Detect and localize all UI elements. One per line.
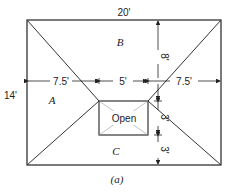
left-height-label: 14' xyxy=(4,90,17,101)
upper-vertical-label: 8' xyxy=(159,53,170,61)
roof-plan-diagram: 20' 14' 7.5' 5' 7.5' 8' 3' 3' B A C Open… xyxy=(0,0,234,192)
region-a-label: A xyxy=(48,94,56,106)
lower-vertical-label: 3' xyxy=(159,146,170,154)
left-span-label: 7.5' xyxy=(53,76,69,87)
region-c-label: C xyxy=(112,145,120,157)
top-width-label: 20' xyxy=(117,7,130,18)
outer-rectangle xyxy=(27,20,221,165)
opening-label: Open xyxy=(112,113,136,124)
figure-caption: (a) xyxy=(111,173,124,186)
region-b-label: B xyxy=(117,36,124,48)
right-span-label: 7.5' xyxy=(176,76,192,87)
middle-span-label: 5' xyxy=(119,76,127,87)
hip-lines xyxy=(27,20,221,165)
open-height-label: 3' xyxy=(159,114,170,122)
